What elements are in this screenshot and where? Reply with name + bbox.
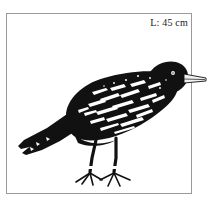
size-label: L: 45 cm [150, 17, 188, 28]
illustration-plate: L: 45 cm [0, 0, 208, 212]
plate-frame: L: 45 cm [6, 13, 192, 194]
